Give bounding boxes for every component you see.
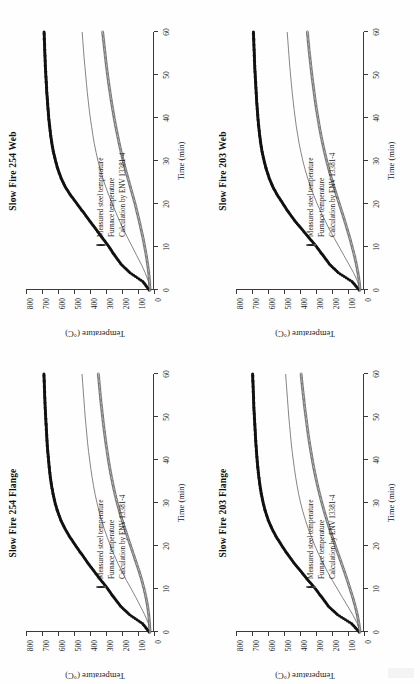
legend-label-furnace: Furnace temperature xyxy=(107,520,118,579)
page-corner-artifact xyxy=(388,668,414,678)
chart-rotor: Slow Fire 203 Flange Time (min) Temperat… xyxy=(210,342,420,684)
plot-region: Time (min) Temperature (°C) 010203040506… xyxy=(236,32,364,290)
legend-label-calculation: Calculation by ENV 13381-4 xyxy=(118,495,129,579)
y-tick xyxy=(74,290,75,294)
x-tick-label: 0 xyxy=(162,630,171,634)
y-tick xyxy=(348,290,349,294)
y-tick xyxy=(42,290,43,294)
y-tick-label: 800 xyxy=(26,298,35,309)
x-tick-label: 0 xyxy=(162,288,171,292)
x-tick-label: 10 xyxy=(372,585,381,593)
y-tick-label: 0 xyxy=(364,298,373,302)
y-tick xyxy=(236,290,237,294)
y-tick xyxy=(106,290,107,294)
x-tick-label: 60 xyxy=(162,28,171,36)
y-tick-label: 400 xyxy=(300,298,309,309)
x-tick-label: 40 xyxy=(162,114,171,122)
y-tick xyxy=(42,632,43,636)
x-tick-label: 40 xyxy=(162,456,171,464)
y-axis-label: Temperature (°C) xyxy=(245,329,365,339)
legend-item-furnace: Furnace temperature xyxy=(317,495,328,592)
y-tick-label: 300 xyxy=(106,298,115,309)
x-tick xyxy=(364,203,368,204)
x-tick-label: 60 xyxy=(372,28,381,36)
y-tick xyxy=(106,632,107,636)
chart-area: Slow Fire 254 Flange Time (min) Temperat… xyxy=(0,342,210,684)
x-tick xyxy=(154,545,158,546)
y-tick-label: 100 xyxy=(348,298,357,309)
y-tick xyxy=(26,290,27,294)
chart-panel-top-left: Slow Fire 254 Web Time (min) Temperature… xyxy=(0,0,210,342)
y-tick-label: 700 xyxy=(42,640,51,651)
x-tick-label: 40 xyxy=(372,456,381,464)
legend-label-furnace: Furnace temperature xyxy=(107,178,118,237)
chart-legend: Measured steel temperature Furnace tempe… xyxy=(306,153,339,250)
x-axis-label: Time (min) xyxy=(386,32,396,290)
x-tick-label: 60 xyxy=(372,370,381,378)
y-tick-label: 500 xyxy=(74,298,83,309)
y-tick-label: 200 xyxy=(332,640,341,651)
y-tick xyxy=(58,290,59,294)
y-tick-label: 600 xyxy=(58,640,67,651)
y-tick xyxy=(154,632,155,636)
y-tick-label: 700 xyxy=(252,298,261,309)
chart-panel-bottom-left: Slow Fire 254 Flange Time (min) Temperat… xyxy=(0,342,210,684)
y-tick-label: 0 xyxy=(364,640,373,644)
legend-item-measured: Measured steel temperature xyxy=(306,153,317,250)
x-tick xyxy=(154,246,158,247)
plot-region: Time (min) Temperature (°C) 010203040506… xyxy=(26,374,154,632)
x-tick xyxy=(364,588,368,589)
open-circle-marker-icon xyxy=(307,241,316,250)
y-tick xyxy=(122,290,123,294)
x-tick xyxy=(364,117,368,118)
legend-item-calculation: Calculation by ENV 13381-4 xyxy=(328,153,339,250)
y-tick xyxy=(332,290,333,294)
x-tick-label: 30 xyxy=(162,499,171,507)
x-axis-label: Time (min) xyxy=(176,32,186,290)
y-tick xyxy=(284,632,285,636)
chart-panel-top-right: Slow Fire 203 Web Time (min) Temperature… xyxy=(210,0,420,342)
x-tick xyxy=(364,74,368,75)
x-axis-label: Time (min) xyxy=(176,374,186,632)
x-tick-label: 0 xyxy=(372,288,381,292)
y-tick-label: 100 xyxy=(138,640,147,651)
x-tick xyxy=(364,373,368,374)
y-tick-label: 800 xyxy=(26,640,35,651)
chart-legend: Measured steel temperature Furnace tempe… xyxy=(96,153,129,250)
y-tick-label: 400 xyxy=(90,640,99,651)
x-tick xyxy=(154,203,158,204)
y-tick xyxy=(348,632,349,636)
y-tick-label: 600 xyxy=(58,298,67,309)
legend-label-measured: Measured steel temperature xyxy=(306,500,317,579)
legend-item-calculation: Calculation by ENV 13381-4 xyxy=(118,153,129,250)
y-tick xyxy=(316,290,317,294)
chart-rotor: Slow Fire 203 Web Time (min) Temperature… xyxy=(210,0,420,342)
y-tick xyxy=(252,632,253,636)
open-circle-marker-icon xyxy=(97,241,106,250)
legend-item-furnace: Furnace temperature xyxy=(107,495,118,592)
y-tick xyxy=(252,290,253,294)
x-tick-label: 50 xyxy=(372,71,381,79)
x-tick-label: 40 xyxy=(372,114,381,122)
y-tick-label: 500 xyxy=(284,298,293,309)
legend-label-calculation: Calculation by ENV 13381-4 xyxy=(328,153,339,237)
y-tick xyxy=(300,290,301,294)
x-tick xyxy=(154,373,158,374)
x-tick-label: 60 xyxy=(162,370,171,378)
legend-label-calculation: Calculation by ENV 13381-4 xyxy=(328,495,339,579)
x-tick-label: 10 xyxy=(372,243,381,251)
plot-region: Time (min) Temperature (°C) 010203040506… xyxy=(236,374,364,632)
legend-item-measured: Measured steel temperature xyxy=(96,495,107,592)
y-tick xyxy=(90,290,91,294)
y-tick xyxy=(300,632,301,636)
chart-area: Slow Fire 203 Web Time (min) Temperature… xyxy=(210,0,420,342)
x-tick xyxy=(364,416,368,417)
x-tick-label: 30 xyxy=(372,157,381,165)
y-axis-label: Temperature (°C) xyxy=(245,671,365,681)
chart-panel-bottom-right: Slow Fire 203 Flange Time (min) Temperat… xyxy=(210,342,420,684)
y-tick-label: 200 xyxy=(122,298,131,309)
chart-title: Slow Fire 203 Flange xyxy=(218,342,228,684)
x-tick xyxy=(154,416,158,417)
y-tick-label: 800 xyxy=(236,640,245,651)
chart-area: Slow Fire 254 Web Time (min) Temperature… xyxy=(0,0,210,342)
